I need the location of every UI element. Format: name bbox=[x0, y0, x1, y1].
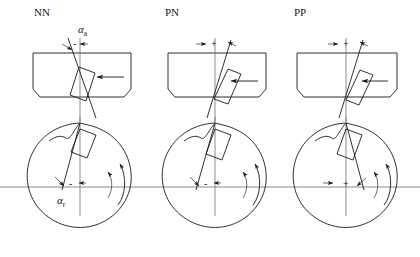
nn-top-view: - αa bbox=[33, 23, 131, 122]
panel-label-pn: PN bbox=[165, 6, 179, 18]
axial-rake-sign-pn: + bbox=[211, 38, 217, 49]
tool-axis-line bbox=[339, 40, 363, 118]
diagram-canvas: NN - αa bbox=[0, 0, 420, 257]
pp-end-view: + bbox=[293, 117, 397, 227]
rotation-arrow-outer bbox=[384, 164, 391, 205]
workpiece-circle bbox=[293, 123, 397, 227]
tool-insert bbox=[346, 70, 373, 105]
rotation-arrow-inner bbox=[243, 172, 247, 198]
tool-axis-line bbox=[68, 38, 96, 118]
tool-insert bbox=[214, 69, 241, 104]
rotation-arrow-inner bbox=[108, 172, 112, 198]
axial-rake-sign-nn: - bbox=[73, 38, 76, 49]
tool-axis-line bbox=[207, 40, 231, 118]
radial-rake-sign-pn: - bbox=[204, 178, 207, 189]
workpiece-circle bbox=[162, 123, 266, 227]
rotation-arrow-outer bbox=[118, 164, 125, 205]
panel-nn: NN - αa bbox=[27, 6, 131, 227]
radial-rake-label: αr bbox=[57, 194, 66, 209]
rotation-arrow-inner bbox=[374, 172, 378, 198]
workpiece-circle bbox=[27, 123, 131, 227]
end-view-tool-axis bbox=[346, 123, 364, 190]
pn-end-view: - bbox=[162, 117, 266, 227]
end-view-tool-insert bbox=[71, 129, 96, 158]
rotation-arrow-outer bbox=[253, 164, 260, 205]
radial-angle-arrow-left bbox=[55, 177, 64, 186]
radial-rake-sign-nn: - bbox=[69, 178, 72, 189]
workpiece-block bbox=[297, 53, 397, 97]
tool-insert bbox=[70, 67, 95, 101]
axial-rake-label: αa bbox=[78, 23, 88, 38]
radial-angle-arrow-left bbox=[190, 177, 199, 186]
workpiece-block bbox=[168, 53, 266, 97]
axial-rake-sign-pp: + bbox=[343, 38, 349, 49]
nn-end-view: - αr bbox=[27, 117, 131, 227]
workpiece-block bbox=[33, 53, 131, 97]
panel-label-pp: PP bbox=[294, 6, 306, 18]
radial-rake-sign-pp: + bbox=[343, 178, 349, 189]
rake-angle-figure: NN - αa bbox=[0, 0, 420, 257]
end-view-tool-insert bbox=[337, 129, 362, 160]
panel-label-nn: NN bbox=[34, 6, 50, 18]
panel-pp: PP + + bbox=[293, 6, 397, 227]
pp-top-view: + bbox=[297, 38, 397, 122]
pn-top-view: + bbox=[168, 38, 266, 122]
panel-pn: PN + - bbox=[162, 6, 266, 227]
end-view-tool-insert bbox=[206, 129, 231, 160]
